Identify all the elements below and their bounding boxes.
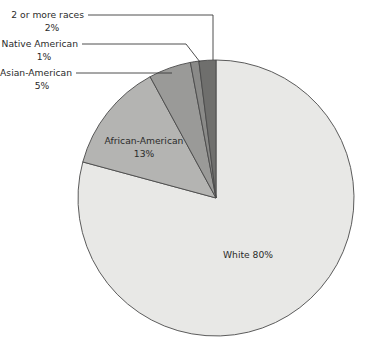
leader-line-two-or-more-races bbox=[88, 15, 213, 60]
label-white-inline: White 80% bbox=[223, 249, 273, 260]
label-native-american-name: Native American bbox=[2, 38, 79, 49]
label-two-or-more-races-name: 2 or more races bbox=[11, 9, 84, 20]
pie-chart-figure: 2 or more races 2% Native American 1% As… bbox=[0, 0, 366, 352]
label-native-american-percent: 1% bbox=[37, 51, 52, 62]
pie-chart-svg: 2 or more races 2% Native American 1% As… bbox=[0, 0, 366, 352]
label-asian-american-name: Asian-American bbox=[0, 67, 72, 78]
label-asian-american-percent: 5% bbox=[35, 80, 50, 91]
leader-line-native-american bbox=[82, 44, 200, 62]
label-african-american-name: African-American bbox=[105, 135, 184, 146]
label-african-american-percent: 13% bbox=[134, 148, 155, 159]
label-two-or-more-races-percent: 2% bbox=[45, 22, 60, 33]
